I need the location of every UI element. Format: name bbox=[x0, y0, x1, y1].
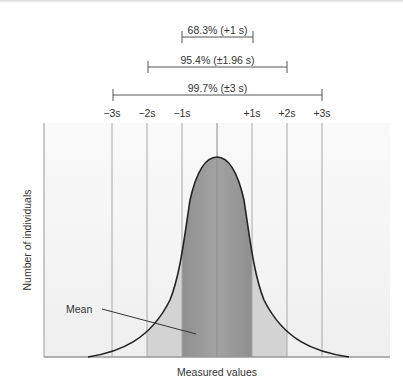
tick-label-plus1s: +1s bbox=[243, 107, 260, 119]
interval-95-label: 95.4% (±1.96 s) bbox=[180, 54, 254, 66]
mean-label: Mean bbox=[66, 303, 92, 315]
interval-99-label: 99.7% (±3 s) bbox=[188, 82, 247, 94]
interval-68-label: 68.3% (+1 s) bbox=[188, 24, 248, 36]
tick-label-plus3s: +3s bbox=[313, 107, 330, 119]
normal-distribution-chart: Mean 68.3% (+1 s) 95.4% (±1.96 s) 99.7% … bbox=[0, 0, 403, 387]
tick-label-minus1s: −1s bbox=[173, 107, 190, 119]
y-axis-title: Number of individuals bbox=[21, 190, 33, 291]
x-axis-title: Measured values bbox=[177, 366, 257, 378]
tick-label-minus2s: −2s bbox=[138, 107, 155, 119]
tick-label-minus3s: −3s bbox=[103, 107, 120, 119]
tick-label-plus2s: +2s bbox=[278, 107, 295, 119]
